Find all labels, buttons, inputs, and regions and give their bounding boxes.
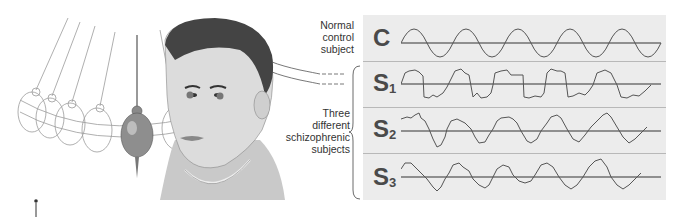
- trace-S3: [401, 155, 663, 199]
- annotation-line: control: [300, 31, 354, 43]
- row-divider: [363, 153, 666, 154]
- annotation-line: subjects: [280, 143, 350, 155]
- pendulum-head-illustration: [0, 0, 300, 217]
- annotation-line: different: [280, 119, 350, 131]
- trace-row-S3: S3: [363, 153, 666, 199]
- brace-icon: [348, 65, 362, 200]
- annotation-line: schizophrenic: [280, 131, 350, 143]
- head-icon: [160, 18, 285, 200]
- trace-C: [401, 19, 663, 59]
- row-divider: [363, 61, 666, 62]
- trace-S2: [401, 109, 663, 153]
- marker-dot-icon: [34, 199, 38, 203]
- trace-label: C: [373, 26, 390, 50]
- control-annotation: Normal control subject: [300, 19, 354, 55]
- trace-label: S1: [373, 71, 396, 101]
- trace-row-C: C: [363, 15, 666, 61]
- trace-S1: [401, 63, 663, 105]
- schizophrenic-annotation: Three different schizophrenic subjects: [280, 107, 350, 155]
- annotation-line: Normal: [300, 19, 354, 31]
- trace-label: S3: [373, 165, 396, 195]
- annotation-line: Three: [280, 107, 350, 119]
- annotation-line: subject: [300, 43, 354, 55]
- trace-row-S2: S2: [363, 107, 666, 153]
- trace-row-S1: S1: [363, 61, 666, 107]
- trace-label: S2: [373, 117, 396, 147]
- row-divider: [363, 107, 666, 108]
- pendulum-bob-icon: [121, 113, 153, 157]
